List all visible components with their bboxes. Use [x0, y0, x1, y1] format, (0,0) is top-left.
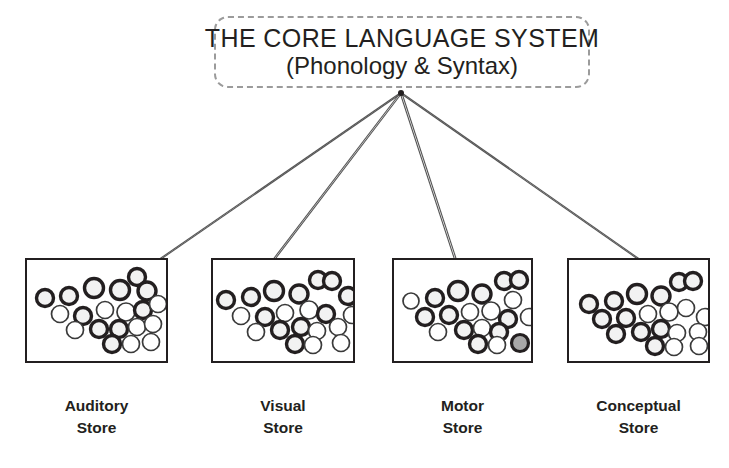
node-circle — [653, 321, 670, 338]
node-circle — [618, 310, 635, 327]
visual-store-label-line2: Store — [211, 417, 355, 439]
node-circle — [305, 337, 322, 354]
node-circle — [117, 303, 135, 321]
connector-line-motor-store — [400, 93, 454, 258]
node-circle — [61, 288, 78, 305]
node-circle — [427, 290, 444, 307]
node-circle — [293, 319, 310, 336]
core-language-system-box: THE CORE LANGUAGE SYSTEM (Phonology & Sy… — [214, 16, 590, 88]
node-circle — [640, 306, 657, 323]
node-circle — [403, 293, 419, 309]
node-circle — [287, 336, 304, 353]
conceptual-store-box — [567, 258, 710, 363]
node-circle — [449, 282, 468, 301]
auditory-store-label-line1: Auditory — [25, 395, 168, 417]
node-circle — [489, 337, 506, 354]
node-circle — [333, 335, 350, 352]
diagram-root: THE CORE LANGUAGE SYSTEM (Phonology & Sy… — [0, 0, 729, 468]
connector-line-auditory-store — [141, 93, 402, 273]
node-circle — [691, 338, 708, 355]
node-circle — [85, 279, 104, 298]
auditory-store-box — [25, 258, 168, 363]
conceptual-store-label: ConceptualStore — [567, 395, 710, 440]
node-circle — [430, 324, 447, 341]
node-circle — [470, 336, 487, 353]
node-circle — [482, 302, 500, 320]
node-circle — [104, 336, 121, 353]
motor-store-node-cloud — [394, 260, 533, 363]
node-circle — [521, 309, 534, 326]
visual-store-label: VisualStore — [211, 395, 355, 440]
auditory-store-node-cloud — [27, 260, 168, 363]
node-circle — [594, 311, 611, 328]
node-circle — [290, 285, 308, 303]
node-circle — [417, 309, 434, 326]
node-circle — [685, 273, 702, 290]
node-circle — [678, 300, 695, 317]
visual-store-label-line1: Visual — [211, 395, 355, 417]
connector-line-motor-store — [402, 93, 456, 258]
auditory-store-label-line2: Store — [25, 417, 168, 439]
motor-store-label: MotorStore — [392, 395, 533, 440]
node-circle — [257, 309, 274, 326]
auditory-store-label: AuditoryStore — [25, 395, 168, 440]
node-circle — [129, 319, 146, 336]
node-circle — [145, 316, 162, 333]
node-circle — [265, 282, 284, 301]
node-circle — [324, 273, 341, 290]
conceptual-store-node-cloud — [569, 260, 710, 363]
node-circle — [462, 304, 479, 321]
node-circle — [628, 285, 647, 304]
visual-store-box — [211, 258, 355, 363]
node-circle — [123, 336, 140, 353]
node-circle — [150, 296, 167, 313]
node-circle — [344, 307, 356, 324]
node-circle — [91, 321, 108, 338]
connector-line-visual-store — [271, 93, 400, 262]
node-circle — [474, 320, 491, 337]
node-circle — [300, 301, 318, 319]
node-circle — [441, 307, 458, 324]
node-circle — [473, 285, 491, 303]
node-circle — [272, 322, 289, 339]
node-circle — [340, 288, 356, 305]
node-circle — [666, 339, 683, 356]
motor-store-box — [392, 258, 533, 363]
connector-line-visual-store — [273, 93, 402, 262]
node-circle — [633, 324, 650, 341]
node-circle — [233, 308, 250, 325]
node-circle — [52, 306, 69, 323]
node-circle — [37, 290, 54, 307]
connector-line-conceptual-store — [402, 93, 641, 260]
node-circle — [218, 292, 235, 309]
node-circle — [243, 289, 260, 306]
motor-store-label-line1: Motor — [392, 395, 533, 417]
node-circle — [330, 319, 347, 336]
node-circle — [277, 305, 294, 322]
connector-line-auditory-store — [139, 93, 400, 273]
node-circle — [456, 322, 473, 339]
node-circle — [511, 272, 528, 289]
node-circle — [647, 338, 664, 355]
node-circle — [608, 326, 625, 343]
visual-store-node-cloud — [213, 260, 355, 363]
node-circle — [581, 296, 598, 313]
core-system-subtitle: (Phonology & Syntax) — [286, 53, 518, 79]
node-circle — [512, 335, 529, 352]
node-circle — [248, 324, 265, 341]
conceptual-store-label-line2: Store — [567, 417, 710, 439]
node-circle — [111, 281, 130, 300]
node-circle — [67, 322, 84, 339]
node-circle — [505, 292, 522, 309]
node-circle — [143, 334, 160, 351]
connector-line-conceptual-store — [400, 93, 639, 260]
node-circle — [606, 293, 623, 310]
motor-store-label-line2: Store — [392, 417, 533, 439]
conceptual-store-label-line1: Conceptual — [567, 395, 710, 417]
node-circle — [97, 302, 114, 319]
core-system-title: THE CORE LANGUAGE SYSTEM — [205, 25, 599, 51]
node-circle — [660, 303, 678, 321]
connector-hub-point — [398, 90, 404, 96]
